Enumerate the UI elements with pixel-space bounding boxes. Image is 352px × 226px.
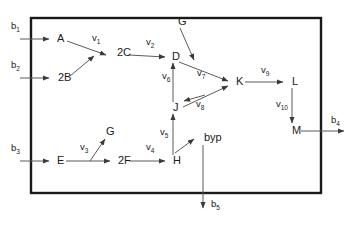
- node-label-G2: G: [106, 125, 115, 137]
- flux-label-v2: v2: [146, 36, 155, 49]
- boundary-flux-label-b1: b1: [11, 20, 20, 33]
- flux-sub-v6: 6: [167, 76, 171, 83]
- node-label-M: M: [292, 124, 301, 136]
- boundary-flux-sub-b2: 2: [16, 65, 20, 72]
- edge-2B-to-merge: [70, 56, 94, 76]
- boundary-flux-label-b2: b2: [11, 59, 20, 72]
- flux-label-v9: v9: [261, 64, 270, 77]
- flux-sub-v2: 2: [151, 42, 155, 49]
- flux-diagram: A2B2CDGKLMJbypHE2FG v1v2v3v4v5v6v7v8v9v1…: [0, 0, 352, 226]
- flux-label-v1: v1: [92, 32, 101, 45]
- node-label-2B: 2B: [58, 71, 71, 83]
- flux-label-v3: v3: [80, 141, 89, 154]
- flux-sub-v5: 5: [165, 132, 169, 139]
- node-label-D: D: [172, 50, 180, 62]
- flux-label-v5: v5: [160, 126, 169, 139]
- node-label-E: E: [57, 154, 64, 166]
- node-label-L: L: [292, 75, 298, 87]
- node-label-H: H: [173, 154, 181, 166]
- node-label-A: A: [57, 32, 65, 44]
- boundary-flux-label-b3: b3: [11, 142, 20, 155]
- flux-sub-v9: 9: [266, 70, 270, 77]
- boundary-flux-label-b4: b4: [331, 114, 340, 127]
- boundary-flux-label-b5: b5: [211, 198, 220, 211]
- flux-sub-v10: 10: [281, 104, 289, 111]
- flux-label-v10: v10: [276, 98, 288, 111]
- node-label-byp: byp: [204, 131, 222, 143]
- flux-sub-v7: 7: [202, 73, 206, 80]
- diagram-canvas: A2B2CDGKLMJbypHE2FG v1v2v3v4v5v6v7v8v9v1…: [0, 0, 352, 226]
- node-label-G1: G: [178, 15, 187, 27]
- node-label-2F: 2F: [118, 154, 131, 166]
- flux-label-v8: v8: [196, 98, 205, 111]
- boundary-flux-sub-b3: 3: [16, 148, 20, 155]
- edge-H-to-byp: [175, 139, 194, 153]
- edge-E-to-G2: [90, 139, 105, 161]
- boundary-flux-sub-b5: 5: [216, 204, 220, 211]
- node-label-2C: 2C: [117, 46, 131, 58]
- node-label-K: K: [236, 75, 244, 87]
- edge-2C-to-D: [129, 55, 165, 57]
- flux-label-v7: v7: [197, 67, 206, 80]
- edge-J-to-K: [183, 86, 228, 107]
- boundary-flux-sub-b4: 4: [336, 120, 340, 127]
- boundary-flux-sub-b1: 1: [16, 26, 20, 33]
- flux-label-v4: v4: [146, 141, 155, 154]
- flux-sub-v8: 8: [201, 104, 205, 111]
- edge-G1-to-v7: [180, 28, 194, 60]
- flux-label-v6: v6: [162, 70, 171, 83]
- flux-sub-v1: 1: [97, 38, 101, 45]
- boundary-flux-labels-group: b1b2b3b4b5: [11, 20, 340, 211]
- node-label-J: J: [173, 101, 179, 113]
- edges-group: [20, 28, 344, 208]
- flux-sub-v4: 4: [151, 147, 155, 154]
- flux-sub-v3: 3: [85, 147, 89, 154]
